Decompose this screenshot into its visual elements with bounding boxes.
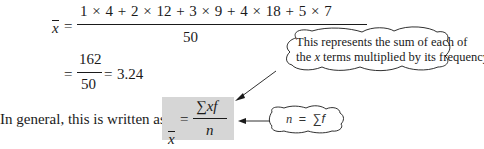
callout-bottom-text: n = ∑f [286,112,325,127]
callout-top-line1: This represents the sum of each of [296,35,446,50]
equals-sign: = [299,112,306,126]
callout-top-text: This represents the sum of each of the x… [296,35,446,65]
callout-graphics [0,0,484,149]
sum-f-expression: ∑f [313,112,325,126]
callout-top-line2: the x terms multiplied by its frequency [296,50,446,65]
arrowhead-bottom-icon [238,118,246,124]
n-variable: n [286,112,292,126]
arrowhead-top-icon [235,93,245,101]
